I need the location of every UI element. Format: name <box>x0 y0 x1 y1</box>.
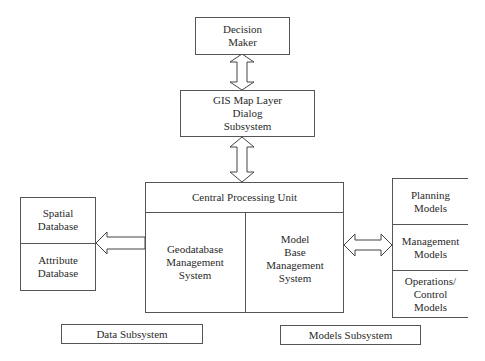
double-arrow-decision-gis <box>230 54 254 90</box>
gdbms-line2: Management <box>166 256 223 269</box>
spatial-db-line2: Database <box>38 220 78 233</box>
operations-control-models: Operations/ Control Models <box>393 271 468 317</box>
models-subsystem-text: Models Subsystem <box>309 329 392 342</box>
management-models-line2: Models <box>414 248 447 261</box>
models-bottom-border <box>392 317 468 318</box>
decision-maker-line1: Decision <box>223 23 262 36</box>
mbms-line3: Management <box>266 259 323 272</box>
management-models-line1: Management <box>402 235 459 248</box>
decision-maker-box: Decision Maker <box>195 17 290 55</box>
gis-dialog-line1: GIS Map Layer <box>213 94 282 107</box>
planning-models-line2: Models <box>414 202 447 215</box>
data-subsystem-text: Data Subsystem <box>96 328 167 341</box>
attribute-db-line2: Database <box>38 267 78 280</box>
cpu-title-text: Central Processing Unit <box>192 191 297 204</box>
mbms-line4: System <box>279 272 311 285</box>
gis-dialog-line2: Dialog <box>233 107 263 120</box>
management-models: Management Models <box>393 225 468 270</box>
planning-models-line1: Planning <box>411 189 450 202</box>
gis-dialog-box: GIS Map Layer Dialog Subsystem <box>180 90 315 137</box>
double-arrow-gis-cpu <box>230 137 254 182</box>
ops-models-line3: Models <box>414 301 447 314</box>
spatial-db-line1: Spatial <box>43 207 74 220</box>
decision-maker-line2: Maker <box>228 36 257 49</box>
attribute-database: Attribute Database <box>20 244 96 290</box>
double-arrow-cpu-models <box>344 234 392 256</box>
planning-models: Planning Models <box>393 179 468 224</box>
gis-dialog-line3: Subsystem <box>224 120 272 133</box>
geodatabase-management-system: Geodatabase Management System <box>145 213 245 312</box>
data-subsystem-label: Data Subsystem <box>61 324 203 344</box>
ops-models-line2: Control <box>414 288 448 301</box>
spatial-database: Spatial Database <box>20 197 96 243</box>
model-base-management-system: Model Base Management System <box>246 213 344 305</box>
models-subsystem-label: Models Subsystem <box>280 325 421 345</box>
attribute-db-line1: Attribute <box>38 254 78 267</box>
gdbms-line1: Geodatabase <box>167 243 223 256</box>
arrow-cpu-to-database <box>96 232 145 254</box>
cpu-title: Central Processing Unit <box>145 182 344 212</box>
ops-models-line1: Operations/ <box>405 275 456 288</box>
gdbms-line3: System <box>179 269 211 282</box>
mbms-line1: Model <box>281 233 310 246</box>
mbms-line2: Base <box>284 246 305 259</box>
